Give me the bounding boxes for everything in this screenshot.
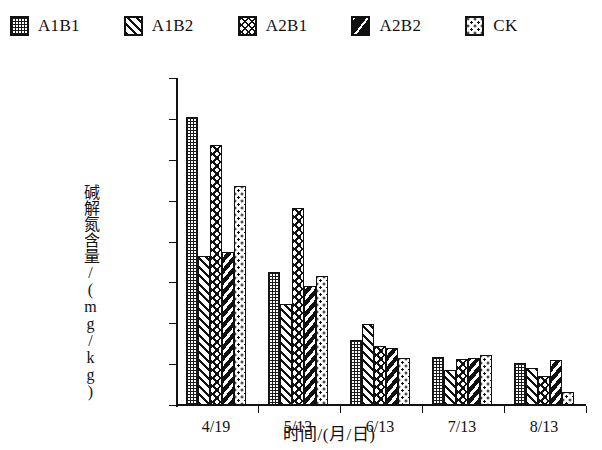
legend-item-a1b2: A1B2 <box>124 16 194 36</box>
x-axis-tick <box>422 406 423 413</box>
bar-a1b1-7-13 <box>432 357 444 405</box>
legend-label-a1b2: A1B2 <box>152 16 194 36</box>
bar-a1b2-5-13 <box>280 304 292 405</box>
x-axis-tick <box>340 406 341 413</box>
legend-swatch-icon-a1b1 <box>10 16 29 36</box>
bar-ck-7-13 <box>480 355 492 405</box>
plot-area: 0.0020.0040.0060.0080.00100.00120.00140.… <box>176 78 586 406</box>
bar-a2b2-8-13 <box>550 360 562 405</box>
y-axis-tick <box>169 282 176 283</box>
y-axis-tick <box>169 78 176 79</box>
legend-label-a2b2: A2B2 <box>379 16 421 36</box>
bar-a1b2-7-13 <box>444 370 456 405</box>
legend-swatch-icon-ck <box>465 16 484 36</box>
legend-label-a2b1: A2B1 <box>266 16 308 36</box>
y-axis-tick <box>169 405 176 406</box>
y-axis-title: 碱解氮含量/(mg/kg) <box>72 184 98 384</box>
legend-swatch-icon-a2b1 <box>238 16 257 36</box>
bar-a2b2-4-19 <box>222 252 234 405</box>
bar-ck-5-13 <box>316 276 328 405</box>
chart-legend: A1B1 A1B2 A2B1 A2B2 CK <box>0 0 602 52</box>
bar-a2b2-5-13 <box>304 286 316 405</box>
bar-a1b1-8-13 <box>514 363 526 405</box>
legend-label-ck: CK <box>493 16 517 36</box>
bar-chart: 碱解氮含量/(mg/kg) 0.0020.0040.0060.0080.0010… <box>0 52 602 450</box>
bar-ck-6-13 <box>398 358 410 405</box>
y-axis-tick <box>169 364 176 365</box>
bar-a2b2-7-13 <box>468 358 480 405</box>
bar-a1b1-4-19 <box>186 117 198 405</box>
x-axis-tick <box>258 406 259 413</box>
x-axis-title-text: 时间/(月/日) <box>283 425 376 444</box>
bar-a2b2-6-13 <box>386 348 398 405</box>
y-axis-tick <box>169 242 176 243</box>
legend-label-a1b1: A1B1 <box>38 16 80 36</box>
bar-a1b2-6-13 <box>362 324 374 405</box>
bar-a1b1-6-13 <box>350 340 362 405</box>
x-axis-tick <box>504 406 505 413</box>
bar-ck-8-13 <box>562 392 574 405</box>
legend-item-a2b1: A2B1 <box>238 16 308 36</box>
x-axis-title: 时间/(月/日) <box>0 420 602 445</box>
bar-ck-4-19 <box>234 186 246 405</box>
bar-a1b2-8-13 <box>526 368 538 405</box>
bar-a2b1-7-13 <box>456 359 468 405</box>
y-axis-tick <box>169 119 176 120</box>
bar-a1b2-4-19 <box>198 256 210 405</box>
legend-swatch-icon-a2b2 <box>351 16 370 36</box>
y-axis-line <box>176 78 178 407</box>
x-axis-tick <box>586 406 587 413</box>
legend-item-a2b2: A2B2 <box>351 16 421 36</box>
bar-a2b1-4-19 <box>210 145 222 405</box>
bar-a2b1-6-13 <box>374 346 386 405</box>
bar-a2b1-5-13 <box>292 208 304 405</box>
y-axis-tick <box>169 201 176 202</box>
bar-a2b1-8-13 <box>538 376 550 405</box>
bar-a1b1-5-13 <box>268 272 280 405</box>
legend-item-a1b1: A1B1 <box>10 16 80 36</box>
legend-item-ck: CK <box>465 16 517 36</box>
y-axis-tick <box>169 323 176 324</box>
y-axis-tick <box>169 160 176 161</box>
legend-swatch-icon-a1b2 <box>124 16 143 36</box>
